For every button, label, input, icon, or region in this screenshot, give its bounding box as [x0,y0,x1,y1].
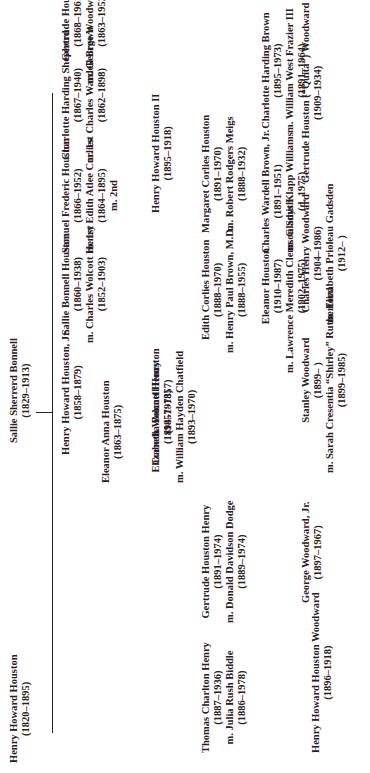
child: Eleanor Anna Houston(1863–1875) [100,380,124,483]
child: Henry Howard Houston, Jr.(1858–1879) [60,330,84,455]
child: Gertrude Houston(1868–1961)m. George Woo… [60,0,108,83]
root-couple: Sallie Sherrerd Bonnell (1829–1913) [8,338,32,443]
line [52,93,53,733]
grandchild: Henry Howard Houston Woodward(1896–1918) [310,592,334,753]
grandchild: Charles Henry Woodward(1904–1986)m. Eliz… [300,184,348,323]
spouse-name: Henry Howard Houston [8,654,20,763]
grandchild: Gertrude Houston (“Quita”) Woodward(1909… [300,3,324,183]
grandchild: Thomas Charlton Henry(1887–1936)m. Julia… [200,642,248,753]
root-name: Sallie Sherrerd Bonnell [8,338,20,443]
grandchild: Edith Corlies Houston(1888–1970)m. Henry… [200,227,248,353]
root-dates: (1829–1913) [20,338,32,443]
root-spouse: Henry Howard Houston (1820–1895) [8,654,32,763]
grandchild: Elizabeth Wolcott Henry(1894–1973)m. Wil… [150,351,198,483]
grandchild: Gertrude Houston Henry(1891–1974)m. Dona… [200,500,248,623]
grandchild: Henry Howard Houston II(1895–1918) [150,94,174,213]
genealogy-chart: Sallie Sherrerd Bonnell (1829–1913) Henr… [0,0,370,773]
grandchild: George Woodward, Jr.(1897–1967) [300,502,324,604]
grandchild: Margaret Corlies Houston(1891–1970)m. Ro… [200,115,248,233]
line [36,412,52,413]
spouse-dates: (1820–1895) [20,654,32,763]
